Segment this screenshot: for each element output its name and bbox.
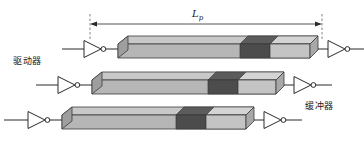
buffer-bubble-1-icon xyxy=(345,47,350,52)
interconnect-buffer-diagram xyxy=(0,0,364,145)
dimension-symbol: L xyxy=(192,8,199,19)
bar-2-dark-segment-front xyxy=(208,80,238,94)
driver-bubble-1-icon xyxy=(101,47,106,52)
bar-2-light-segment-front xyxy=(238,80,276,94)
driver-bubble-2-icon xyxy=(75,83,80,88)
buffer-bubble-2-icon xyxy=(311,83,316,88)
buffer-label: 缓冲器 xyxy=(305,99,334,112)
driver-label: 驱动器 xyxy=(13,54,42,67)
bar-3-dark-segment-front xyxy=(176,115,206,129)
dimension-label: Lp xyxy=(192,8,203,22)
bar-1-dark-segment-front xyxy=(240,44,270,58)
dimension-subscript: p xyxy=(199,14,203,22)
buffer-bubble-3-icon xyxy=(281,118,286,123)
driver-bubble-3-icon xyxy=(45,118,50,123)
bar-3-light-segment-front xyxy=(206,115,246,129)
bar-1-light-segment-front xyxy=(270,44,310,58)
